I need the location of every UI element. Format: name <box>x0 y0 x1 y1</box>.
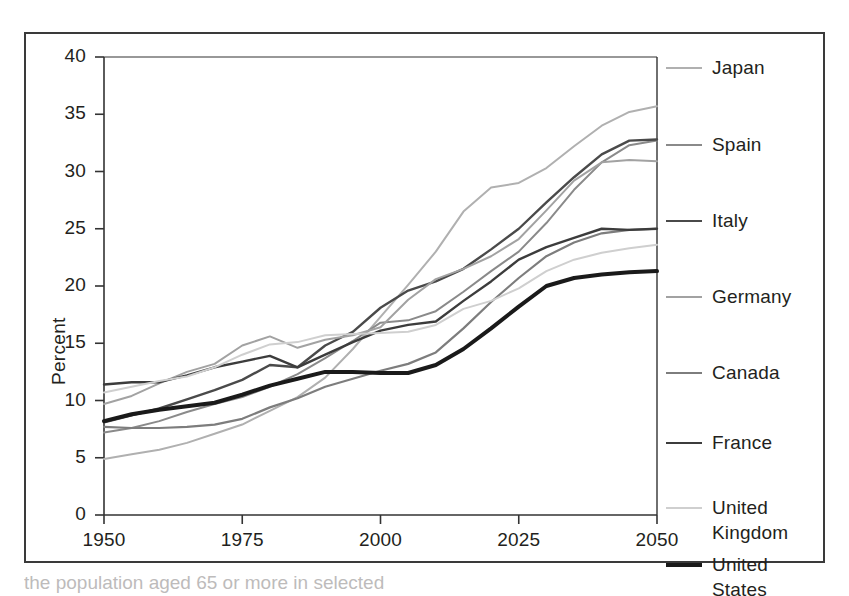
legend-line-swatch <box>666 214 702 228</box>
legend-label: Spain <box>712 132 762 157</box>
axis-group <box>95 57 657 524</box>
series-line-spain <box>104 141 657 433</box>
legend-item-germany[interactable]: Germany <box>666 284 826 309</box>
caption-text: the population aged 65 or more in select… <box>24 572 384 594</box>
figure-frame: Percent 0510152025303540 195019752000202… <box>24 32 825 563</box>
series-line-germany <box>104 160 657 404</box>
chart-plot-area: Percent 0510152025303540 195019752000202… <box>26 34 827 565</box>
legend-label: Italy <box>712 208 748 233</box>
series-lines-group <box>104 106 657 459</box>
x-tick-label: 2000 <box>346 529 416 551</box>
y-tick-label: 35 <box>46 102 86 124</box>
legend-label: United Kingdom <box>712 495 788 545</box>
x-tick-label: 2025 <box>484 529 554 551</box>
legend-line-swatch <box>666 290 702 304</box>
legend-item-united-kingdom[interactable]: United Kingdom <box>666 495 826 545</box>
y-tick-label: 20 <box>46 274 86 296</box>
legend-item-italy[interactable]: Italy <box>666 208 826 233</box>
legend-line-swatch <box>666 501 702 515</box>
y-tick-label: 15 <box>46 331 86 353</box>
y-tick-label: 5 <box>46 446 86 468</box>
legend-item-france[interactable]: France <box>666 430 826 455</box>
legend-label: France <box>712 430 772 455</box>
y-tick-label: 0 <box>46 503 86 525</box>
legend-line-swatch <box>666 138 702 152</box>
y-tick-label: 40 <box>46 45 86 67</box>
legend-label: Canada <box>712 360 780 385</box>
legend-line-swatch <box>666 436 702 450</box>
legend-item-japan[interactable]: Japan <box>666 55 826 80</box>
legend-label: Japan <box>712 55 765 80</box>
chart-legend: JapanSpainItalyGermanyCanadaFranceUnited… <box>666 40 826 560</box>
caption-strip: the population aged 65 or more in select… <box>24 572 825 596</box>
y-tick-label: 10 <box>46 389 86 411</box>
legend-line-swatch <box>666 61 702 75</box>
legend-line-swatch <box>666 558 702 572</box>
x-tick-label: 1950 <box>69 529 139 551</box>
y-tick-label: 25 <box>46 217 86 239</box>
legend-item-spain[interactable]: Spain <box>666 132 826 157</box>
legend-item-canada[interactable]: Canada <box>666 360 826 385</box>
y-tick-label: 30 <box>46 160 86 182</box>
legend-line-swatch <box>666 366 702 380</box>
legend-label: Germany <box>712 284 792 309</box>
x-tick-label: 1975 <box>207 529 277 551</box>
